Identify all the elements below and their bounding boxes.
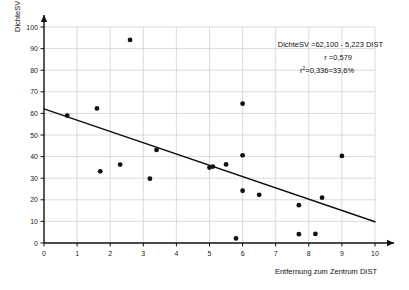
annotation-r-squared: r2=0,336=33,6% xyxy=(300,65,354,75)
x-tick-label: 6 xyxy=(241,250,245,257)
x-axis-arrowhead xyxy=(387,240,394,246)
y-axis-title: DichteSV xyxy=(13,1,22,32)
y-tick-label: 50 xyxy=(30,132,38,139)
scatter-chart: 0123456789100102030405060708090100 Entfe… xyxy=(0,0,409,290)
y-tick-label: 60 xyxy=(30,110,38,117)
data-point xyxy=(118,162,123,167)
data-point xyxy=(313,232,318,237)
regression-annotation: DichteSV =62,100 - 5,223 DISTr =0,579r2=… xyxy=(278,40,384,75)
x-tick-label: 0 xyxy=(42,250,46,257)
y-tick-label: 30 xyxy=(30,175,38,182)
y-tick-label: 10 xyxy=(30,218,38,225)
x-tick-label: 10 xyxy=(371,250,379,257)
data-point xyxy=(148,176,153,181)
data-point xyxy=(320,195,325,200)
x-tick-label: 1 xyxy=(75,250,79,257)
y-tick-label: 0 xyxy=(34,240,38,247)
y-axis-arrowhead xyxy=(41,15,47,22)
axes xyxy=(41,15,395,247)
data-point xyxy=(234,236,239,241)
data-point xyxy=(95,106,100,111)
y-tick-label: 80 xyxy=(30,67,38,74)
x-axis-title: Entfernung zum Zentrum DIST xyxy=(275,267,378,276)
x-tick-label: 7 xyxy=(274,250,278,257)
data-point xyxy=(224,162,229,167)
data-point xyxy=(210,164,215,169)
data-point xyxy=(65,113,70,118)
x-tick-label: 8 xyxy=(307,250,311,257)
x-tick-label: 5 xyxy=(208,250,212,257)
annotation-equation: DichteSV =62,100 - 5,223 DIST xyxy=(278,40,384,49)
data-point xyxy=(240,188,245,193)
x-tick-label: 4 xyxy=(174,250,178,257)
data-point xyxy=(154,148,159,153)
annotation-correlation: r =0,579 xyxy=(324,53,352,62)
data-point xyxy=(296,232,301,237)
data-point xyxy=(240,101,245,106)
data-point xyxy=(340,154,345,159)
data-point xyxy=(98,169,103,174)
plot-canvas: 0123456789100102030405060708090100 Entfe… xyxy=(0,0,409,290)
y-tick-label: 20 xyxy=(30,196,38,203)
x-tick-label: 2 xyxy=(108,250,112,257)
data-point xyxy=(257,192,262,197)
y-tick-label: 90 xyxy=(30,45,38,52)
data-point xyxy=(296,203,301,208)
y-tick-label: 40 xyxy=(30,153,38,160)
y-tick-label: 100 xyxy=(26,24,38,31)
y-tick-label: 70 xyxy=(30,88,38,95)
data-point xyxy=(128,38,133,43)
data-point xyxy=(240,153,245,158)
x-tick-label: 9 xyxy=(340,250,344,257)
x-tick-label: 3 xyxy=(141,250,145,257)
